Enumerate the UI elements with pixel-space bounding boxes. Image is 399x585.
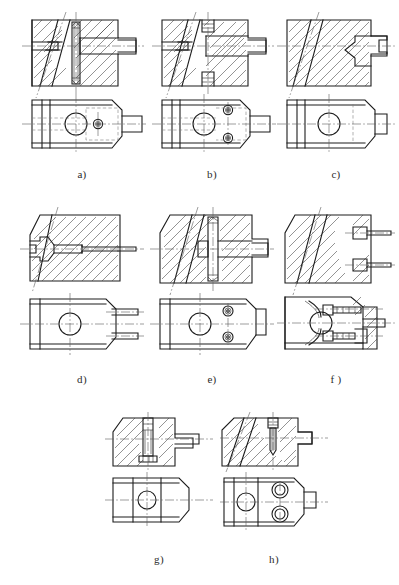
figure-b-drawing bbox=[148, 8, 276, 163]
figure-e-section-view bbox=[150, 207, 274, 295]
figure-c-drawing bbox=[275, 8, 397, 163]
figure-f-section-view bbox=[285, 207, 395, 295]
figure-d-drawing bbox=[18, 205, 146, 370]
figure-g-label: g) bbox=[103, 553, 215, 565]
figure-h-plan-view bbox=[220, 472, 328, 532]
figure-a-label: a) bbox=[18, 168, 146, 180]
figure-a-plan-view bbox=[22, 94, 146, 154]
figure-h-drawing bbox=[218, 410, 330, 550]
figure-a-section-view bbox=[22, 12, 144, 98]
figure-c: c) bbox=[275, 8, 397, 163]
figure-e: e) bbox=[148, 205, 276, 370]
figure-e-drawing bbox=[148, 205, 276, 370]
figure-e-plan-view bbox=[150, 293, 274, 355]
figure-c-label: c) bbox=[275, 168, 397, 180]
figure-a-drawing bbox=[18, 8, 146, 163]
figure-g-section-view bbox=[105, 412, 213, 472]
figure-f-label: f ) bbox=[275, 373, 397, 385]
figure-g-plan-view bbox=[105, 472, 213, 528]
figure-f-plan-view bbox=[277, 297, 395, 349]
figure-g: g) bbox=[103, 410, 215, 550]
figure-c-plan-view bbox=[277, 94, 395, 154]
figure-d-label: d) bbox=[18, 373, 146, 385]
figure-h-label: h) bbox=[218, 553, 330, 565]
figure-b: b) bbox=[148, 8, 276, 163]
figure-d-plan-view bbox=[20, 293, 144, 355]
figure-b-section-view bbox=[152, 12, 274, 98]
figure-a: a) bbox=[18, 8, 146, 163]
figure-h-section-view bbox=[220, 412, 328, 472]
figure-d: d) bbox=[18, 205, 146, 370]
figure-h: h) bbox=[218, 410, 330, 550]
figure-c-section-view bbox=[277, 12, 395, 98]
figure-f-drawing bbox=[275, 205, 397, 370]
figure-f: f ) bbox=[275, 205, 397, 370]
figure-g-drawing bbox=[103, 410, 215, 550]
figure-e-label: e) bbox=[148, 373, 276, 385]
figure-d-section-view bbox=[20, 207, 144, 293]
drawing-sheet: a) bbox=[0, 0, 399, 585]
figure-b-label: b) bbox=[148, 168, 276, 180]
figure-b-plan-view bbox=[152, 94, 276, 154]
